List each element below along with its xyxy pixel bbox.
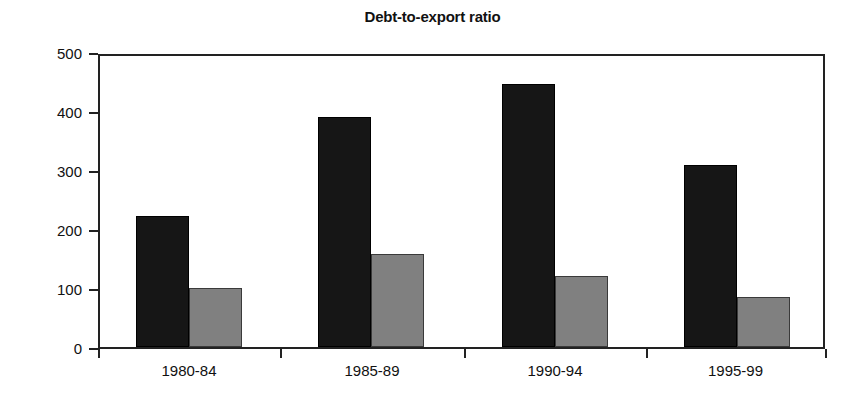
chart-title: Debt-to-export ratio — [0, 8, 865, 25]
x-tick-mark-3 — [646, 349, 648, 358]
y-tick-label-200: 200 — [30, 223, 82, 238]
y-tick-mark-300 — [89, 171, 98, 173]
y-tick-mark-400 — [89, 112, 98, 114]
plot-area — [98, 54, 825, 349]
x-tick-mark-4 — [825, 349, 827, 358]
y-tick-mark-100 — [89, 289, 98, 291]
bar-1980-84-series-1 — [136, 216, 189, 347]
x-tick-label-1995-99: 1995-99 — [676, 363, 796, 378]
y-tick-label-300: 300 — [30, 164, 82, 179]
x-tick-label-1990-94: 1990-94 — [495, 363, 615, 378]
y-tick-mark-200 — [89, 230, 98, 232]
x-tick-mark-0 — [98, 349, 100, 358]
y-tick-mark-500 — [89, 53, 98, 55]
y-tick-label-500: 500 — [30, 46, 82, 61]
bar-1985-89-series-1 — [318, 117, 371, 347]
y-tick-mark-0 — [89, 348, 98, 350]
y-tick-label-100: 100 — [30, 282, 82, 297]
x-tick-mark-2 — [464, 349, 466, 358]
x-tick-label-1980-84: 1980-84 — [129, 363, 249, 378]
bar-1985-89-series-2 — [371, 254, 424, 347]
y-tick-label-400: 400 — [30, 105, 82, 120]
x-tick-mark-1 — [280, 349, 282, 358]
x-tick-label-1985-89: 1985-89 — [312, 363, 432, 378]
bar-1990-94-series-2 — [555, 276, 608, 347]
bar-1980-84-series-2 — [189, 288, 242, 347]
chart-container: Debt-to-export ratio 0100200300400500 19… — [0, 0, 865, 404]
bar-1990-94-series-1 — [502, 84, 555, 347]
y-tick-label-0: 0 — [30, 341, 82, 356]
bar-1995-99-series-1 — [684, 165, 737, 347]
bar-1995-99-series-2 — [737, 297, 790, 347]
